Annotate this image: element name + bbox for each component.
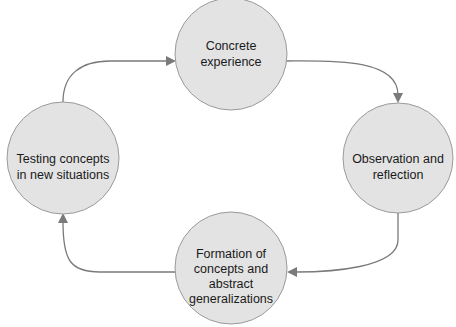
node-label-line: Concrete	[206, 39, 257, 53]
learning-cycle-diagram: Concrete experience Observation and refl…	[0, 0, 456, 327]
node-label-line: abstract	[209, 277, 254, 291]
node-label-line: Formation of	[196, 247, 267, 261]
node-concrete-experience: Concrete experience	[175, 0, 287, 110]
node-label-line: Testing concepts	[16, 152, 109, 166]
edge-concrete-to-observation	[286, 61, 398, 95]
edge-formation-to-testing	[63, 222, 175, 272]
node-testing-concepts: Testing concepts in new situations	[7, 102, 119, 214]
arrowhead-formation	[287, 267, 297, 277]
node-observation-reflection: Observation and reflection	[343, 103, 453, 213]
node-label-line: generalizations	[189, 292, 273, 306]
arrowhead-concrete	[166, 56, 176, 66]
node-label-line: reflection	[373, 168, 424, 182]
node-label-line: concepts and	[194, 262, 268, 276]
edge-observation-to-formation	[296, 213, 398, 272]
node-formation-of-concepts: Formation of concepts and abstract gener…	[175, 212, 287, 324]
node-label-line: in new situations	[17, 168, 109, 182]
node-label-line: experience	[200, 55, 261, 69]
node-label-line: Observation and	[352, 152, 444, 166]
edge-testing-to-concrete	[63, 61, 168, 102]
arrowhead-observation	[393, 93, 403, 103]
